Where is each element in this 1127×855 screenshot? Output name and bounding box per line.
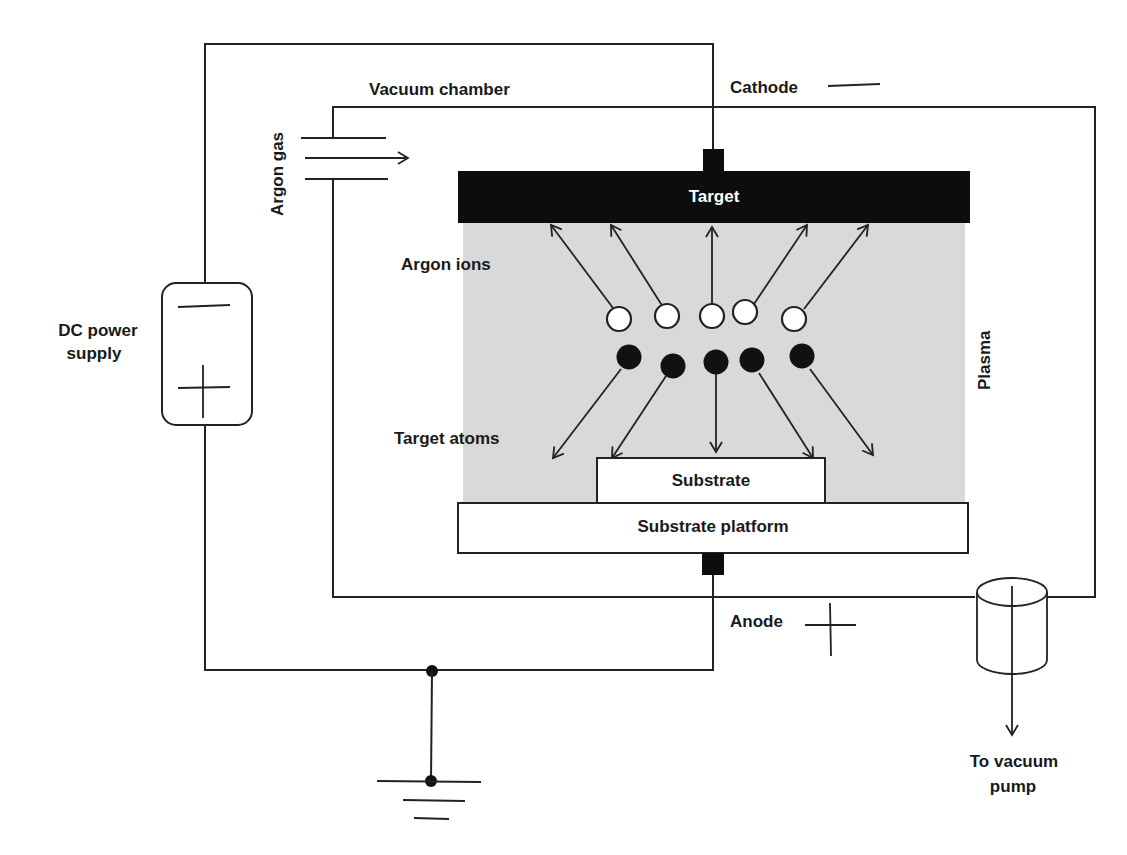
positive-terminal-icon	[178, 387, 230, 388]
target-atom	[790, 344, 815, 369]
cathode-connector	[703, 149, 724, 173]
anode-connector	[702, 553, 724, 575]
target-atom	[661, 354, 686, 379]
substrate-platform-label: Substrate platform	[637, 517, 788, 536]
target-atom	[704, 350, 729, 375]
cathode-minus-sign	[828, 84, 880, 86]
target-atom	[617, 345, 642, 370]
target-atoms-label: Target atoms	[394, 429, 500, 448]
argon-gas-inlet	[301, 138, 408, 179]
sputtering-diagram: Target Argon gas Vacuum chamber Cathode	[0, 0, 1127, 855]
dc-power-supply-label-2: supply	[67, 344, 122, 363]
vacuum-pump-icon	[977, 578, 1047, 735]
vacuum-chamber-label: Vacuum chamber	[369, 80, 510, 99]
vacuum-pump-label: To vacuum	[970, 752, 1058, 771]
dc-power-supply	[162, 283, 252, 425]
anode-label: Anode	[730, 612, 783, 631]
argon-gas-label: Argon gas	[268, 132, 287, 216]
argon-ions-label: Argon ions	[401, 255, 491, 274]
ground-icon	[377, 665, 481, 819]
plasma-label: Plasma	[975, 330, 994, 390]
argon-ion	[782, 307, 806, 331]
target-atom	[740, 348, 765, 373]
argon-ion	[655, 304, 679, 328]
argon-ion	[700, 304, 724, 328]
cathode-label: Cathode	[730, 78, 798, 97]
dc-power-supply-label: DC power	[58, 321, 138, 340]
argon-ion	[733, 300, 757, 324]
vacuum-pump-label-2: pump	[990, 777, 1036, 796]
substrate-label: Substrate	[672, 471, 750, 490]
target-label: Target	[689, 187, 740, 206]
argon-ion	[607, 307, 631, 331]
anode-plus-sign	[805, 603, 856, 656]
